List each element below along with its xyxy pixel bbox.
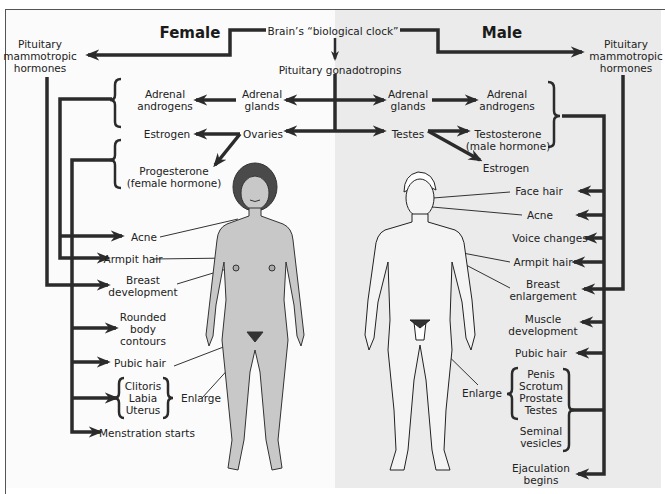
female-acne-label: Acne [131, 231, 157, 243]
brace-female-estrogen [110, 140, 121, 188]
brain-clock-label: Brain’s “biological clock” [268, 25, 399, 37]
voice-changes-label: Voice changes [512, 232, 587, 244]
female-adrenal-glands-label: Adrenal glands [242, 88, 282, 112]
male-estrogen-label: Estrogen [483, 162, 530, 174]
muscle-development-label: Muscle development [508, 313, 577, 337]
seminal-vesicles-label: Seminal vesicles [520, 425, 562, 449]
brace-female-organs-left [114, 378, 124, 418]
male-adrenal-androgens-label: Adrenal androgens [479, 88, 535, 112]
brace-female-organs-right [163, 378, 173, 418]
arrow-ovaries-to-progesterone [215, 134, 240, 165]
ovaries-label: Ovaries [243, 128, 283, 140]
leader-male-face-hair [433, 192, 510, 198]
arrow-androgens-to-armpit [60, 99, 112, 258]
pituitary-gonadotropins-label: Pituitary gonadotropins [279, 64, 402, 76]
testosterone-label: Testosterone (male hormone) [466, 128, 551, 152]
female-mammotropic-label: Pituitary mammotropic hormones [3, 38, 77, 74]
male-head [406, 179, 434, 217]
arrow-estrogen-to-menstruation [72, 160, 112, 432]
leader-male-acne [432, 207, 522, 215]
male-enlarge-label: Enlarge [462, 387, 502, 399]
female-head [241, 176, 269, 210]
arrow-mammotropic-to-breast [47, 77, 108, 285]
male-pubic-hair-label: Pubic hair [515, 347, 567, 359]
testes-label: Testes [392, 128, 425, 140]
brace-female-androgens [110, 79, 121, 127]
female-adrenal-androgens-label: Adrenal androgens [137, 88, 193, 112]
female-breast-left [233, 265, 239, 271]
male-adrenal-glands-label: Adrenal glands [388, 88, 428, 112]
progesterone-label: Progesterone (female hormone) [127, 165, 222, 189]
female-breast-right [269, 265, 275, 271]
female-armpit-hair-label: Armpit hair [104, 253, 163, 265]
male-title: Male [482, 24, 522, 42]
brace-male-organs-right [563, 369, 574, 451]
ejaculation-label: Ejaculation begins [512, 462, 570, 486]
breast-enlargement-label: Breast enlargement [509, 278, 576, 302]
female-organs-label: Clitoris Labia Uterus [125, 380, 161, 416]
male-acne-label: Acne [527, 209, 553, 221]
female-estrogen-label: Estrogen [144, 128, 191, 140]
menstruation-label: Menstration starts [99, 427, 195, 439]
female-breast-development-label: Breast development [108, 274, 177, 298]
female-pubic-hair-label: Pubic hair [114, 357, 166, 369]
female-figure [206, 163, 304, 470]
male-body [365, 214, 475, 470]
male-mammotropic-label: Pituitary mammotropic hormones [589, 38, 663, 74]
rounded-contours-label: Rounded body contours [120, 311, 166, 347]
female-title: Female [160, 24, 221, 42]
female-enlarge-label: Enlarge [181, 392, 221, 404]
male-organs-label: Penis Scrotum Prostate Testes [519, 368, 563, 416]
male-figure [365, 172, 475, 470]
brace-male-organs-left [507, 368, 518, 419]
male-armpit-hair-label: Armpit hair [514, 256, 573, 268]
face-hair-label: Face hair [515, 185, 562, 197]
